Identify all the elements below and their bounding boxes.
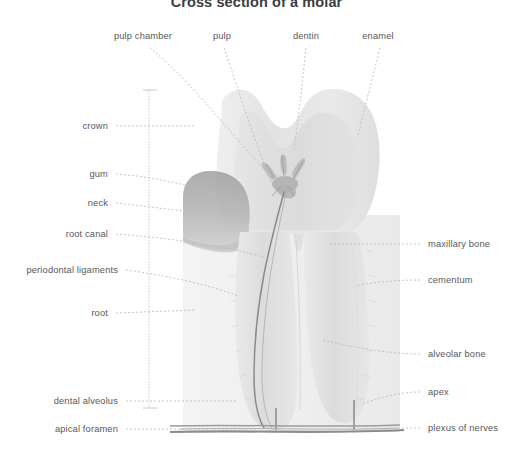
left-extent-bracket [143,90,157,408]
label-pulp: pulp [182,32,262,41]
label-root-canal: root canal [0,230,108,239]
label-dental-alveolus: dental alveolus [0,397,118,406]
label-crown: crown [0,122,108,131]
label-periodontal-ligaments: periodontal ligaments [0,266,118,275]
molar-cross-section-figure: Cross section of a molar [0,0,513,462]
label-apex: apex [428,388,449,397]
label-plexus-of-nerves: plexus of nerves [428,424,498,433]
label-cementum: cementum [428,276,473,285]
label-enamel: enamel [338,32,418,41]
label-root: root [0,309,108,318]
label-maxillary-bone: maxillary bone [428,240,490,249]
label-neck: neck [0,199,108,208]
plexus-of-nerves-shape [170,425,404,432]
label-dentin: dentin [266,32,346,41]
label-alveolar-bone: alveolar bone [428,350,486,359]
label-gum: gum [0,170,108,179]
label-apical-foramen: apical foramen [0,425,118,434]
